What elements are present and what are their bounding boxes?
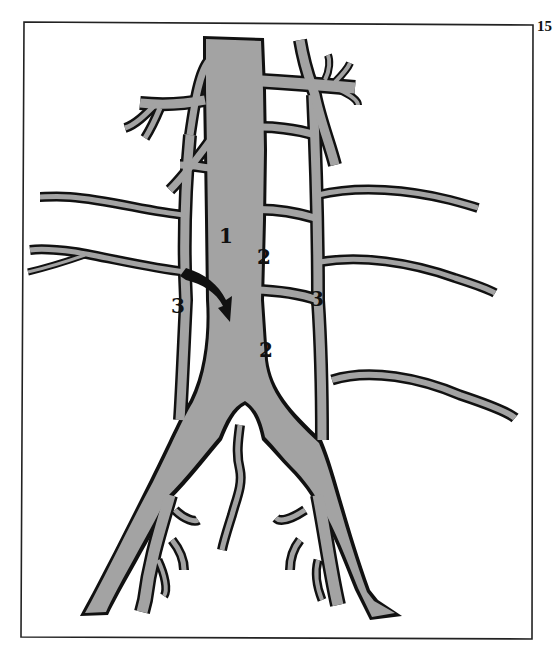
label-2-lower: 2 [259, 338, 273, 362]
vessel-fills [28, 39, 515, 617]
label-1: 1 [219, 224, 233, 248]
label-3-left: 3 [171, 294, 185, 318]
vessel-outlines [28, 36, 515, 620]
figure-frame [21, 22, 533, 639]
label-2-upper: 2 [257, 245, 271, 269]
label-3-right: 3 [310, 287, 324, 311]
vascular-diagram: 1 2 2 3 3 [0, 0, 555, 655]
